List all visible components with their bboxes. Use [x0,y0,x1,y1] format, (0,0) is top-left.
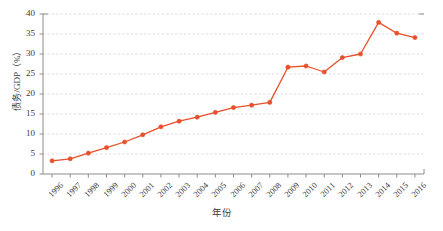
y-axis-tick-label: 5 [13,149,35,158]
data-point-marker [231,106,235,110]
y-axis-tick-label: 20 [13,89,35,98]
data-point-marker [104,146,108,150]
figure-container: 债务/GDP（%） 年份 051015202530354019961997199… [0,0,443,231]
data-point-marker [413,36,417,40]
data-point-marker [268,100,272,104]
data-point-marker [286,65,290,69]
data-point-marker [322,70,326,74]
data-point-marker [250,103,254,107]
data-point-marker [340,56,344,60]
y-axis-tick-label: 30 [13,49,35,58]
data-point-marker [86,151,90,155]
series-line [52,22,415,160]
data-point-marker [358,52,362,56]
y-axis-tick-label: 15 [13,109,35,118]
y-axis-tick-label: 40 [13,9,35,18]
data-point-marker [213,110,217,114]
data-point-marker [123,140,127,144]
data-point-marker [68,157,72,161]
y-axis-tick-label: 35 [13,29,35,38]
data-point-marker [395,31,399,35]
data-point-marker [195,115,199,119]
data-point-marker [159,125,163,129]
data-point-marker [304,64,308,68]
data-point-marker [141,133,145,137]
data-point-marker [377,20,381,24]
y-axis-tick-label: 0 [13,169,35,178]
y-axis-tick-label: 25 [13,69,35,78]
data-point-marker [177,119,181,123]
data-point-marker [50,159,54,163]
y-axis-tick-label: 10 [13,129,35,138]
